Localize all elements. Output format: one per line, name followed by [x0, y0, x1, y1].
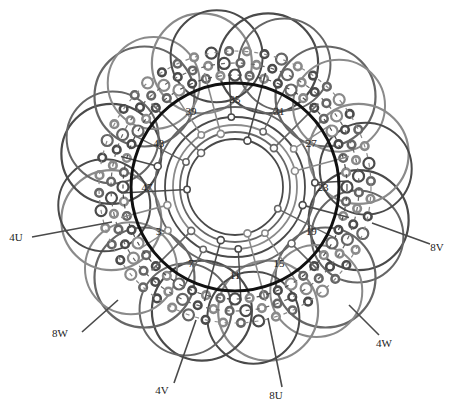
terminal-node: [184, 186, 190, 192]
connector-node: [282, 69, 293, 80]
terminal-node: [198, 150, 205, 157]
slot-spoke: [292, 244, 319, 271]
connector-node: [153, 295, 161, 303]
connector-node: [349, 220, 357, 228]
lead-label: 4W: [376, 337, 393, 349]
terminal-node: [228, 114, 234, 120]
terminal-node: [154, 163, 161, 170]
connector-node: [121, 240, 129, 248]
connector-node: [127, 117, 135, 125]
connector-node: [342, 234, 353, 245]
slot-number-label: 47: [142, 181, 154, 193]
terminal-node: [262, 230, 268, 236]
connector-chains: [95, 47, 374, 326]
connector-node: [158, 80, 169, 91]
connector-node: [341, 126, 349, 134]
connector-node: [165, 288, 173, 296]
connector-node: [113, 146, 121, 154]
terminal-node: [183, 159, 189, 165]
connector-node: [298, 79, 306, 87]
connector-node: [253, 315, 264, 326]
connector-node: [354, 126, 362, 134]
slot-number-label: 11: [230, 269, 241, 281]
winding-diagram: 3531272319151173474339 4U8V8W4V8U4W: [0, 0, 459, 409]
connector-node: [206, 48, 217, 59]
lead-label: 8W: [52, 327, 69, 339]
connector-node: [357, 228, 368, 239]
terminal-node: [299, 202, 306, 209]
terminal-node: [270, 145, 277, 152]
connector-node: [190, 53, 198, 61]
slot-number-label: 23: [318, 181, 330, 193]
connector-node: [128, 226, 136, 234]
slot-number-label: 35: [230, 93, 242, 105]
slot-number-label: 3: [156, 225, 162, 237]
lead-wire: [174, 320, 196, 383]
terminal-node: [217, 237, 224, 244]
connector-node: [120, 198, 128, 206]
connector-node: [304, 298, 312, 306]
slot-number-label: 39: [186, 105, 198, 117]
connector-node: [364, 213, 372, 221]
terminal-node: [288, 240, 295, 247]
terminal-node: [164, 202, 171, 209]
connector-node: [98, 154, 106, 162]
lead-label: 8V: [430, 241, 444, 253]
terminal-node: [198, 132, 204, 138]
connector-node: [115, 226, 123, 234]
terminal-node: [244, 230, 251, 237]
connector-node: [102, 135, 113, 146]
slot-number-label: 7: [188, 257, 194, 269]
slot-number-label: 19: [306, 225, 318, 237]
lead-label: 4V: [155, 384, 169, 396]
lead-label: 8U: [269, 389, 283, 401]
connector-node: [168, 304, 176, 312]
terminal-node: [200, 246, 206, 252]
connector-node: [174, 73, 182, 81]
connector-node: [348, 141, 356, 149]
terminal-node: [235, 246, 241, 252]
connector-node: [276, 54, 287, 65]
lead-label: 4U: [9, 231, 23, 243]
slot-spoke: [295, 156, 349, 170]
terminal-node: [188, 227, 195, 234]
slot-number-label: 31: [274, 105, 285, 117]
terminal-node: [291, 146, 297, 152]
connector-node: [128, 140, 136, 148]
slot-number-label: 27: [306, 137, 318, 149]
connector-node: [108, 241, 116, 249]
connector-node: [288, 293, 296, 301]
connector-node: [188, 287, 196, 295]
terminal-node: [291, 167, 298, 174]
terminal-node: [260, 129, 266, 135]
connector-node: [294, 63, 302, 71]
connector-node: [289, 306, 297, 314]
terminal-node: [165, 227, 171, 233]
slot-number-label: 15: [274, 257, 286, 269]
terminal-node: [217, 130, 224, 137]
connector-node: [116, 256, 124, 264]
slot-number-label: 43: [153, 137, 165, 149]
slot-spoke: [204, 73, 220, 134]
connector-node: [346, 110, 354, 118]
lead-wire: [268, 318, 282, 387]
connector-node: [352, 246, 360, 254]
terminal-node: [244, 137, 251, 144]
terminal-node: [275, 206, 281, 212]
stator-ring: [131, 83, 339, 291]
connector-node: [204, 62, 212, 70]
connector-node: [335, 140, 343, 148]
connector-node: [101, 224, 109, 232]
connector-node: [301, 283, 312, 294]
connector-node: [177, 294, 188, 305]
connector-link: [99, 51, 371, 323]
lead-wire: [372, 223, 430, 244]
